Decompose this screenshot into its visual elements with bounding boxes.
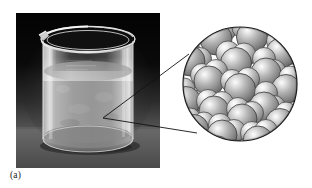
beaker-glass [39,27,135,154]
magnified-molecular-view [178,15,304,155]
molecule-circle-svg [178,15,304,155]
water-molecule-cluster [178,15,304,155]
beaker-rim [39,27,135,54]
beaker-photo-svg [16,13,160,168]
beaker-photograph [16,13,160,168]
figure-panel-a: (a) [0,0,312,188]
panel-label: (a) [10,170,21,181]
